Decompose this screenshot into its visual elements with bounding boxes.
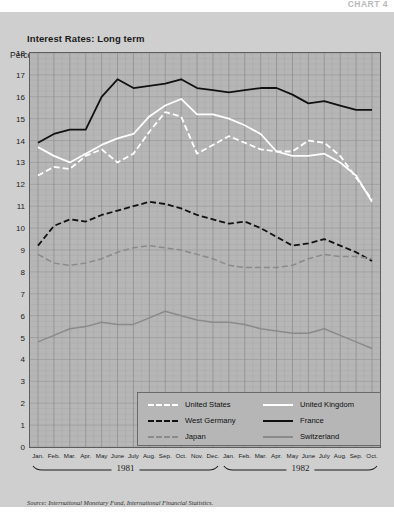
x-tick-label: Dec. bbox=[207, 452, 220, 459]
x-tick-label: Aug. bbox=[334, 452, 347, 459]
y-tick-label: 16 bbox=[9, 92, 25, 101]
legend-swatch-solid bbox=[263, 420, 293, 422]
y-tick-label: 4 bbox=[9, 355, 25, 364]
legend-label: United Kingdom bbox=[300, 400, 354, 409]
y-tick-label: 8 bbox=[9, 267, 25, 276]
x-tick-label: July bbox=[319, 452, 330, 459]
x-tick-label: Mar. bbox=[255, 452, 267, 459]
legend-item: United Kingdom bbox=[263, 400, 354, 409]
legend-label: Japan bbox=[185, 432, 206, 441]
x-tick-label: Jan. bbox=[32, 452, 44, 459]
x-tick-label: Aug. bbox=[143, 452, 156, 459]
chart-number-label: CHART 4 bbox=[348, 0, 388, 9]
x-tick-label: Apr. bbox=[271, 452, 282, 459]
legend-item: United States bbox=[148, 400, 231, 409]
chart-canvas bbox=[30, 53, 380, 447]
legend-swatch-solid bbox=[263, 404, 293, 406]
y-tick-label: 3 bbox=[9, 377, 25, 386]
page-title: Interest Rates: Long term bbox=[27, 33, 145, 44]
source-note: Source: International Monetary Fund, Int… bbox=[27, 499, 213, 506]
x-tick-label: May bbox=[96, 452, 108, 459]
y-tick-label: 15 bbox=[9, 114, 25, 123]
legend-label: West Germany bbox=[185, 416, 236, 425]
legend-item: West Germany bbox=[148, 416, 236, 425]
x-tick-label: May bbox=[287, 452, 299, 459]
y-tick-label: 14 bbox=[9, 136, 25, 145]
grid-lines bbox=[30, 53, 380, 447]
y-tick-label: 1 bbox=[9, 421, 25, 430]
x-tick-label: July bbox=[128, 452, 139, 459]
x-tick-label: Jan. bbox=[223, 452, 235, 459]
legend-swatch-dashed bbox=[148, 404, 178, 406]
x-tick-label: Feb. bbox=[239, 452, 251, 459]
chart-page: CHART 4 Interest Rates: Long term Percen… bbox=[0, 0, 394, 523]
legend-swatch-dashed bbox=[148, 436, 178, 438]
legend-label: Switzerland bbox=[300, 432, 339, 441]
legend-label: France bbox=[300, 416, 324, 425]
x-tick-label: Sep. bbox=[350, 452, 363, 459]
y-tick-label: 12 bbox=[9, 180, 25, 189]
legend-item: France bbox=[263, 416, 324, 425]
chart-legend: United StatesWest GermanyJapan United Ki… bbox=[137, 392, 381, 446]
y-tick-label: 2 bbox=[9, 399, 25, 408]
legend-label: United States bbox=[185, 400, 231, 409]
x-tick-label: Nov. bbox=[191, 452, 203, 459]
y-tick-label: 9 bbox=[9, 246, 25, 255]
x-tick-label: June bbox=[111, 452, 124, 459]
legend-swatch-dashed bbox=[148, 420, 178, 422]
y-tick-label: 0 bbox=[9, 443, 25, 452]
legend-swatch-solid bbox=[263, 436, 293, 438]
plot-area bbox=[29, 52, 381, 448]
x-tick-label: Mar. bbox=[64, 452, 76, 459]
y-tick-label: 11 bbox=[9, 202, 25, 211]
legend-item: Japan bbox=[148, 432, 206, 441]
y-tick-label: 7 bbox=[9, 289, 25, 298]
legend-item: Switzerland bbox=[263, 432, 339, 441]
y-tick-label: 18 bbox=[9, 49, 25, 58]
y-tick-label: 10 bbox=[9, 224, 25, 233]
x-tick-label: Oct. bbox=[175, 452, 186, 459]
x-tick-label: June bbox=[302, 452, 315, 459]
y-tick-label: 17 bbox=[9, 70, 25, 79]
x-tick-label: Sep. bbox=[159, 452, 172, 459]
x-tick-label: Apr. bbox=[80, 452, 91, 459]
chart-number-strip: CHART 4 bbox=[0, 0, 394, 12]
y-tick-label: 5 bbox=[9, 333, 25, 342]
y-tick-label: 13 bbox=[9, 158, 25, 167]
y-tick-label: 6 bbox=[9, 311, 25, 320]
x-tick-label: Feb. bbox=[48, 452, 60, 459]
x-tick-label: Oct. bbox=[366, 452, 377, 459]
